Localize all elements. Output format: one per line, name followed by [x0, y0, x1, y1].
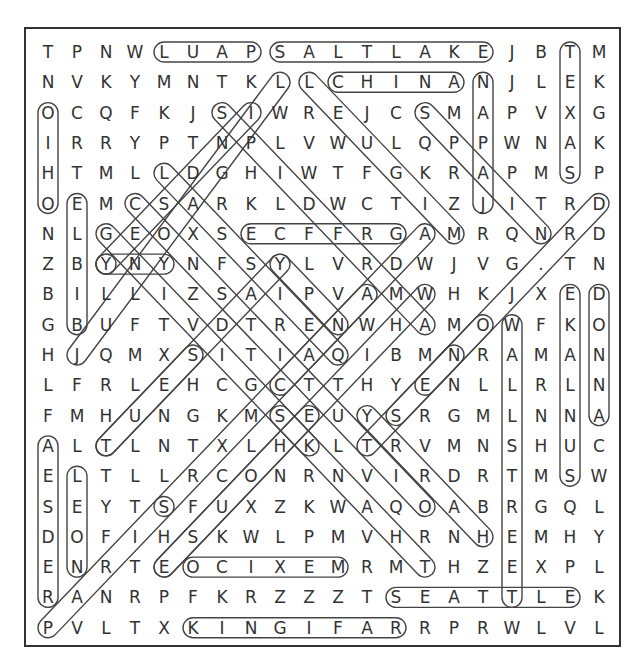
- grid-letter: L: [94, 616, 118, 640]
- grid-letter: V: [326, 282, 350, 306]
- grid-letter: T: [558, 40, 582, 64]
- grid-letter: G: [210, 161, 234, 185]
- grid-letter: P: [297, 525, 321, 549]
- grid-letter: E: [239, 222, 263, 246]
- grid-letter: U: [558, 434, 582, 458]
- grid-letter: T: [123, 495, 147, 519]
- grid-letter: D: [297, 192, 321, 216]
- grid-letter: V: [297, 131, 321, 155]
- grid-letter: M: [442, 101, 466, 125]
- grid-letter: H: [239, 161, 263, 185]
- grid-letter: P: [500, 101, 524, 125]
- grid-letter: Z: [442, 192, 466, 216]
- grid-letter: K: [297, 495, 321, 519]
- grid-letter: R: [181, 464, 205, 488]
- grid-letter: L: [123, 373, 147, 397]
- grid-letter: M: [326, 525, 350, 549]
- grid-letter: A: [500, 343, 524, 367]
- grid-letter: G: [36, 313, 60, 337]
- grid-letter: N: [529, 222, 553, 246]
- grid-letter: N: [529, 131, 553, 155]
- grid-letter: A: [471, 101, 495, 125]
- grid-letter: E: [297, 313, 321, 337]
- grid-letter: K: [181, 616, 205, 640]
- grid-letter: E: [326, 101, 350, 125]
- grid-letter: V: [326, 252, 350, 276]
- grid-letter: M: [94, 192, 118, 216]
- grid-letter: D: [210, 313, 234, 337]
- grid-letter: B: [65, 252, 89, 276]
- grid-letter: T: [471, 585, 495, 609]
- grid-letter: H: [355, 70, 379, 94]
- grid-letter: S: [384, 404, 408, 428]
- grid-letter: K: [239, 192, 263, 216]
- grid-letter: R: [355, 555, 379, 579]
- grid-letter: K: [239, 70, 263, 94]
- grid-letter: J: [500, 282, 524, 306]
- grid-letter: N: [152, 434, 176, 458]
- grid-letter: K: [442, 40, 466, 64]
- grid-letter: T: [123, 555, 147, 579]
- grid-letter: S: [239, 252, 263, 276]
- grid-letter: K: [152, 101, 176, 125]
- grid-letter: H: [471, 525, 495, 549]
- grid-letter: E: [152, 555, 176, 579]
- grid-letter: O: [413, 495, 437, 519]
- grid-letter: R: [558, 222, 582, 246]
- grid-letter: G: [442, 404, 466, 428]
- grid-letter: A: [65, 585, 89, 609]
- grid-letter: S: [152, 495, 176, 519]
- grid-letter: Z: [36, 252, 60, 276]
- grid-letter: T: [355, 585, 379, 609]
- grid-letter: N: [65, 555, 89, 579]
- grid-letter: T: [36, 40, 60, 64]
- grid-letter: C: [210, 555, 234, 579]
- grid-letter: I: [239, 555, 263, 579]
- grid-letter: L: [152, 464, 176, 488]
- grid-letter: K: [210, 585, 234, 609]
- grid-letter: J: [355, 101, 379, 125]
- grid-letter: P: [65, 40, 89, 64]
- grid-letter: I: [65, 282, 89, 306]
- grid-letter: W: [413, 252, 437, 276]
- grid-letter: N: [529, 404, 553, 428]
- grid-letter: .: [529, 252, 553, 276]
- grid-letter: E: [500, 555, 524, 579]
- grid-letter: W: [326, 131, 350, 155]
- grid-letter: W: [500, 131, 524, 155]
- grid-letter: N: [587, 343, 611, 367]
- grid-letter: E: [297, 404, 321, 428]
- grid-letter: S: [210, 101, 234, 125]
- grid-letter: T: [210, 70, 234, 94]
- grid-letter: N: [558, 404, 582, 428]
- grid-letter: R: [413, 464, 437, 488]
- grid-letter: Y: [355, 404, 379, 428]
- grid-letter: A: [413, 222, 437, 246]
- grid-letter: Z: [297, 585, 321, 609]
- grid-letter: R: [471, 343, 495, 367]
- grid-letter: M: [529, 343, 553, 367]
- grid-letter: K: [210, 404, 234, 428]
- grid-letter: A: [297, 343, 321, 367]
- grid-letter: E: [36, 555, 60, 579]
- grid-letter: K: [94, 70, 118, 94]
- grid-letter: S: [413, 101, 437, 125]
- grid-letter: I: [384, 70, 408, 94]
- grid-letter: N: [210, 131, 234, 155]
- grid-letter: I: [268, 161, 292, 185]
- grid-letter: V: [355, 464, 379, 488]
- grid-letter: U: [326, 404, 350, 428]
- grid-letter: O: [471, 313, 495, 337]
- grid-letter: O: [36, 101, 60, 125]
- grid-letter: L: [94, 282, 118, 306]
- grid-letter: L: [326, 434, 350, 458]
- grid-letter: E: [558, 70, 582, 94]
- grid-letter: Q: [94, 101, 118, 125]
- grid-letter: T: [355, 40, 379, 64]
- grid-letter: S: [268, 404, 292, 428]
- grid-letter: S: [181, 343, 205, 367]
- grid-letter: X: [268, 555, 292, 579]
- grid-letter: D: [36, 525, 60, 549]
- grid-letter: N: [471, 434, 495, 458]
- grid-letter: L: [65, 464, 89, 488]
